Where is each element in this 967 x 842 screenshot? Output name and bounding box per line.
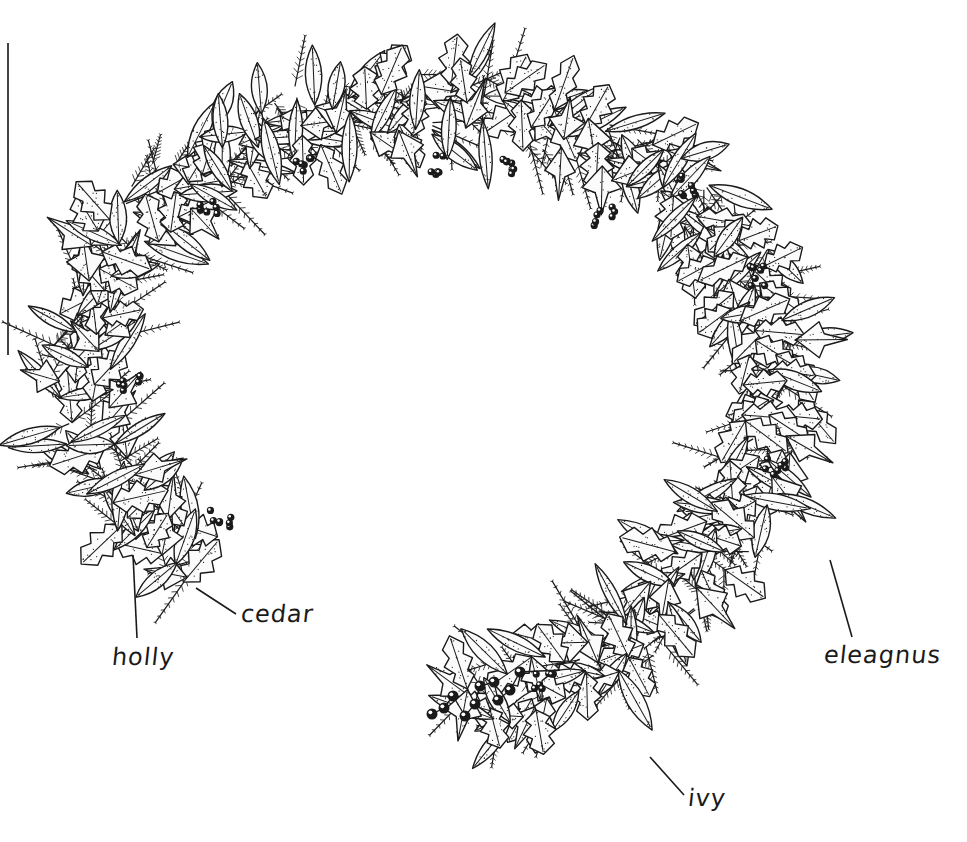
berry-icon bbox=[688, 182, 695, 189]
berry-icon bbox=[678, 190, 685, 197]
berry-icon bbox=[216, 518, 223, 525]
eleagnus-leaf-icon bbox=[706, 177, 775, 217]
label-eleagnus: eleagnus bbox=[823, 641, 943, 669]
berry-icon bbox=[596, 207, 603, 214]
berry-icon bbox=[752, 275, 759, 282]
berry-icon bbox=[515, 667, 526, 678]
berry-icon bbox=[448, 691, 459, 702]
berry-icon bbox=[136, 372, 143, 379]
page-edge-rule bbox=[7, 43, 9, 355]
leader-line-ivy bbox=[650, 757, 684, 795]
berry-icon bbox=[678, 172, 685, 179]
berry-icon bbox=[427, 709, 438, 720]
berry-icon bbox=[298, 160, 305, 167]
ivy-leaf-icon bbox=[796, 322, 848, 358]
cedar-sprig-icon bbox=[150, 133, 163, 163]
berry-icon bbox=[609, 213, 616, 220]
berry-icon bbox=[505, 685, 516, 696]
garland-drawing bbox=[0, 0, 967, 842]
berry-icon bbox=[300, 168, 307, 175]
leader-line-cedar bbox=[196, 588, 236, 614]
berry-icon bbox=[227, 514, 234, 521]
label-holly: holly bbox=[111, 643, 176, 671]
berry-icon bbox=[548, 671, 555, 678]
berry-icon bbox=[760, 262, 767, 269]
label-cedar: cedar bbox=[240, 600, 316, 628]
eleagnus-leaf-icon bbox=[249, 62, 269, 115]
berry-icon bbox=[777, 462, 784, 469]
berry-icon bbox=[120, 382, 127, 389]
garland-illustration bbox=[0, 0, 967, 842]
berry-icon bbox=[470, 699, 481, 710]
berry-icon bbox=[439, 152, 446, 159]
berry-icon bbox=[475, 681, 486, 692]
berry-icon bbox=[439, 703, 450, 714]
berry-icon bbox=[207, 507, 214, 514]
berry-icon bbox=[503, 158, 510, 165]
berry-icon bbox=[460, 711, 471, 722]
berry-icon bbox=[493, 695, 504, 706]
berry-icon bbox=[764, 455, 771, 462]
label-ivy: ivy bbox=[687, 784, 728, 812]
berry-icon bbox=[307, 155, 314, 162]
berry-icon bbox=[435, 169, 442, 176]
cedar-sprig-icon bbox=[292, 34, 307, 86]
berry-icon bbox=[750, 264, 757, 271]
berry-icon bbox=[209, 198, 216, 205]
berry-icon bbox=[428, 168, 435, 175]
leader-line-eleagnus bbox=[830, 560, 852, 637]
berry-icon bbox=[770, 471, 777, 478]
berry-icon bbox=[762, 465, 769, 472]
berry-icon bbox=[748, 282, 755, 289]
berry-icon bbox=[538, 685, 545, 692]
berry-icon bbox=[213, 210, 220, 217]
berry-icon bbox=[203, 208, 210, 215]
berry-icon bbox=[592, 218, 599, 225]
berry-icon bbox=[508, 170, 515, 177]
berry-icon bbox=[761, 282, 768, 289]
berry-icon bbox=[433, 152, 440, 159]
eleagnus-leaf-icon bbox=[304, 45, 323, 106]
berry-icon bbox=[135, 378, 142, 385]
cedar-sprig-icon bbox=[526, 137, 545, 195]
cedar-sprig-icon bbox=[570, 588, 607, 615]
berry-icon bbox=[197, 201, 204, 208]
berry-icon bbox=[489, 677, 500, 688]
